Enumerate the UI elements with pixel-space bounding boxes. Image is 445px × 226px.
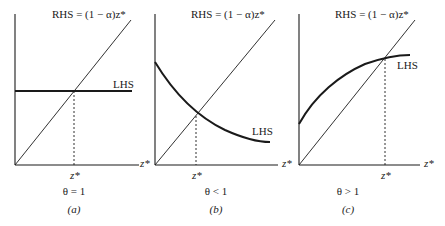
panel-caption: (a) (44, 204, 104, 215)
lhs-label: LHS (252, 126, 273, 137)
condition-label: θ > 1 (318, 186, 378, 197)
lhs-label: LHS (113, 79, 134, 90)
rhs-line (299, 20, 415, 165)
panel-caption: (c) (318, 204, 378, 215)
panel-caption: (b) (186, 204, 246, 215)
rhs-line (155, 20, 275, 165)
panel-c (299, 14, 420, 165)
condition-label: θ < 1 (186, 186, 246, 197)
x-axis-label: z* (282, 158, 292, 169)
rhs-line (15, 20, 131, 165)
condition-label: θ = 1 (44, 186, 104, 197)
lhs-curve (299, 55, 410, 124)
equilibrium-label: z* (381, 170, 391, 181)
equilibrium-label: z* (192, 170, 202, 181)
x-axis-label: z* (424, 158, 434, 169)
lhs-label: LHS (397, 60, 418, 71)
rhs-label: RHS = (1 − α)z* (191, 9, 265, 20)
rhs-label: RHS = (1 − α)z* (52, 9, 126, 20)
panel-b (155, 14, 278, 165)
equilibrium-label: z* (70, 170, 80, 181)
x-axis-label: z* (140, 158, 150, 169)
rhs-label: RHS = (1 − α)z* (335, 9, 409, 20)
